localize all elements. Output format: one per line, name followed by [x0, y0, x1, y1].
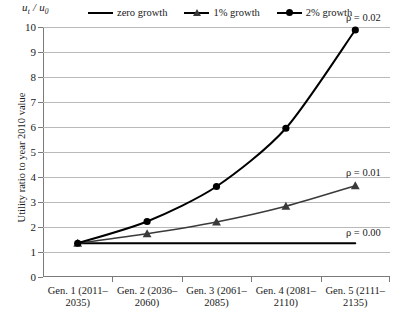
series-line	[78, 30, 356, 243]
data-point-circle	[352, 26, 359, 33]
data-point-circle	[213, 183, 220, 190]
y-axis-tick-label: 5	[31, 146, 37, 158]
x-axis-category-label-line1: Gen. 1 (2011–	[40, 285, 116, 297]
x-axis-category-label-line2: 2060)	[109, 297, 185, 309]
y-axis-tick-label: 8	[31, 71, 37, 83]
data-point-circle	[74, 240, 81, 247]
x-axis-category-label: Gen. 5 (2111–2135)	[317, 285, 393, 309]
x-axis-category-label: Gen. 3 (2061–2085)	[179, 285, 255, 309]
y-axis-tick-label: 9	[31, 46, 37, 58]
annotation-rho-zero-growth: ρ = 0.00	[346, 227, 381, 238]
x-axis-category-label: Gen. 1 (2011–2035)	[40, 285, 116, 309]
y-axis-tick-label: 4	[31, 171, 37, 183]
y-axis-tick-label: 2	[31, 221, 37, 233]
annotation-rho-2-growth: ρ = 0.02	[346, 12, 381, 23]
series-2-growth	[74, 26, 359, 246]
x-axis-category-label-line1: Gen. 4 (2081–	[248, 285, 324, 297]
y-axis-tick-label: 10	[25, 21, 36, 33]
x-axis-category-label-line1: Gen. 5 (2111–	[317, 285, 393, 297]
y-axis-tick-label: 0	[31, 271, 37, 283]
x-axis-category-label-line1: Gen. 2 (2036–	[109, 285, 185, 297]
legend-marker-circle-icon	[277, 8, 302, 18]
chart-figure: ut / u0 Utility ratio to year 2010 value…	[0, 0, 414, 317]
legend-marker-line-icon	[88, 8, 113, 18]
y-axis-tick-label: 1	[31, 246, 37, 258]
series-layer	[43, 27, 390, 277]
x-axis-category-label: Gen. 2 (2036–2060)	[109, 285, 185, 309]
legend-label-1-percent-growth: 1% growth	[213, 7, 259, 18]
legend-label-zero-growth: zero growth	[117, 7, 167, 18]
y-axis-tick-label: 7	[31, 96, 37, 108]
legend-item-1-percent-growth: 1% growth	[184, 7, 259, 18]
x-axis-category-label-line2: 2035)	[40, 297, 116, 309]
plot-area: 012345678910	[43, 27, 390, 277]
y-axis-tick-label: 3	[31, 196, 37, 208]
x-axis-tick	[112, 277, 113, 282]
legend-marker-triangle-icon	[184, 8, 209, 18]
y-axis-tick	[38, 277, 43, 278]
data-point-circle	[282, 125, 289, 132]
x-axis-tick	[182, 277, 183, 282]
x-axis-tick	[389, 277, 390, 282]
series-line	[78, 186, 356, 244]
x-axis-category-label-line2: 2110)	[248, 297, 324, 309]
data-point-circle	[144, 218, 151, 225]
x-axis-category-label-line2: 2085)	[179, 297, 255, 309]
annotation-rho-1-growth: ρ = 0.01	[346, 167, 381, 178]
chart-legend: zero growth 1% growth 2% growth	[88, 7, 352, 18]
y-unit-sub-0: 0	[45, 7, 49, 16]
y-axis-unit-caption: ut / u0	[22, 1, 49, 16]
legend-item-zero-growth: zero growth	[88, 7, 167, 18]
y-axis-tick-label: 6	[31, 121, 37, 133]
x-axis-tick	[251, 277, 252, 282]
x-axis-category-label: Gen. 4 (2081–2110)	[248, 285, 324, 309]
x-axis-category-label-line1: Gen. 3 (2061–	[179, 285, 255, 297]
y-unit-divider: / u	[30, 1, 45, 13]
y-axis-title: Utility ratio to year 2010 value	[16, 68, 27, 248]
data-point-triangle	[351, 181, 360, 189]
x-axis-category-label-line2: 2135)	[317, 297, 393, 309]
legend-item-2-percent-growth: 2% growth	[277, 7, 352, 18]
series-1-growth	[73, 181, 359, 247]
x-axis-tick	[321, 277, 322, 282]
